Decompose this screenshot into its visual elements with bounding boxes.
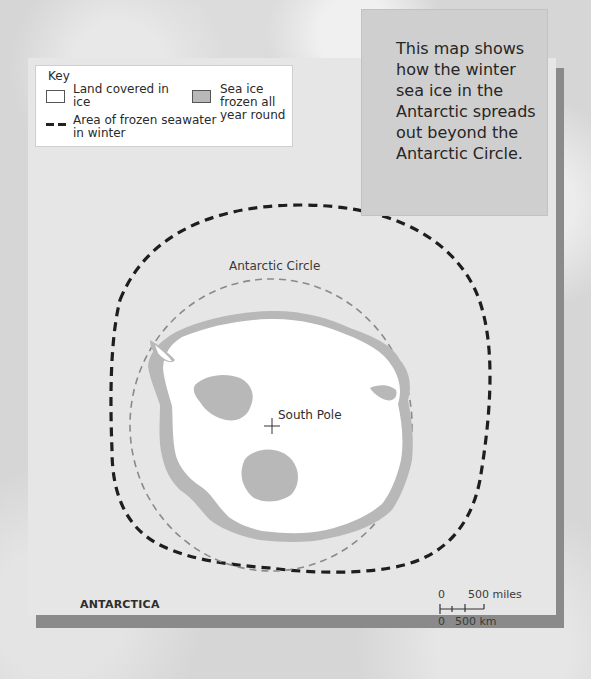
scale-bar: 0 500 miles 0 500 km (438, 588, 558, 628)
scale-miles-zero: 0 (438, 588, 445, 601)
key-label-land-ice: Land covered in ice (73, 83, 183, 109)
south-pole-label: South Pole (278, 408, 342, 422)
dashed-line-swatch-icon (46, 123, 66, 126)
antarctic-circle-label: Antarctic Circle (229, 259, 320, 273)
region-label: ANTARCTICA (80, 598, 160, 611)
scale-km-label: 500 km (455, 615, 497, 628)
key-label-sea-ice: Sea ice frozen all year round (220, 83, 292, 122)
map-key: Key Land covered in ice Sea ice frozen a… (35, 65, 293, 147)
sea-ice-swatch-icon (192, 90, 211, 103)
key-label-winter-ice: Area of frozen seawater in winter (73, 114, 223, 140)
note-text: This map shows how the winter sea ice in… (396, 38, 546, 164)
scale-km-zero: 0 (438, 615, 445, 628)
scale-miles-label: 500 miles (468, 588, 522, 601)
land-ice-swatch-icon (46, 90, 65, 103)
key-title: Key (48, 70, 70, 83)
